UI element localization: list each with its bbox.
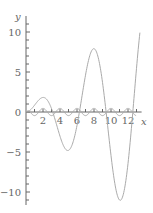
- x-axis-label: x: [141, 116, 147, 127]
- y-axis-label: y: [14, 11, 21, 22]
- y-tick-label: 0: [15, 107, 21, 118]
- y-tick-label: −5: [6, 147, 21, 158]
- y-tick-label: 5: [15, 67, 21, 78]
- x-tick-label: 2: [40, 115, 46, 126]
- chart: −10−5051024681012 x y: [0, 0, 153, 213]
- x-tick-label: 8: [91, 115, 97, 126]
- y-tick-label: −10: [0, 187, 21, 198]
- x-tick-label: 4: [57, 115, 63, 126]
- axes: −10−5051024681012: [0, 16, 142, 205]
- y-tick-label: 10: [8, 27, 21, 38]
